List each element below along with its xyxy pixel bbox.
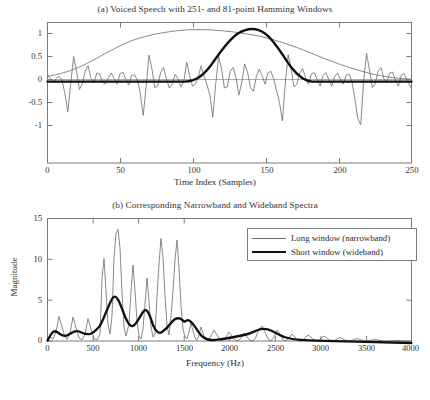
xtick-a-0: 0 [37,165,58,175]
plot-b-canvas [0,196,430,400]
ytick-a-1: 0.5 [20,51,42,61]
xtick-b-6: 3000 [306,343,335,353]
xtick-b-0: 0 [38,343,57,353]
legend-line-thick-icon [252,247,286,257]
panel-a-xlabel: Time Index (Samples) [0,177,430,187]
ytick-a-4: -1 [17,120,42,130]
xtick-a-3: 150 [255,165,279,175]
panel-voiced-speech: (a) Voiced Speech with 251- and 81-point… [0,0,430,200]
xtick-a-4: 200 [328,165,352,175]
panel-spectra: (b) Corresponding Narrowband and Wideban… [0,196,430,400]
long-hamming-window [48,30,412,80]
xtick-b-1: 500 [80,343,106,353]
ytick-a-2: 0 [20,74,42,84]
xtick-b-8: 4000 [396,343,425,353]
xtick-a-5: 250 [400,165,424,175]
legend: Long window (narrowband) Short window (w… [247,228,417,261]
ytick-b-1: 10 [20,254,42,264]
xtick-a-2: 100 [182,165,206,175]
ytick-b-2: 5 [20,295,42,305]
legend-item-wideband: Short window (wideband) [252,245,383,259]
xtick-b-3: 1500 [170,343,199,353]
speech-waveform [48,53,412,124]
figure-container: (a) Voiced Speech with 251- and 81-point… [0,0,430,400]
xtick-b-7: 3500 [352,343,381,353]
ytick-b-0: 15 [20,213,42,223]
xtick-b-2: 1000 [124,343,153,353]
legend-label-narrowband: Long window (narrowband) [291,233,390,243]
legend-label-wideband: Short window (wideband) [291,247,383,257]
xtick-b-5: 2500 [261,343,290,353]
xtick-b-4: 2000 [215,343,244,353]
ytick-a-0: 1 [20,28,42,38]
ytick-a-3: -0.5 [17,97,42,107]
legend-item-narrowband: Long window (narrowband) [252,231,390,245]
panel-b-xlabel: Frequency (Hz) [0,358,430,368]
xtick-a-1: 50 [110,165,131,175]
panel-b-ylabel: Magnitude [9,242,19,312]
legend-line-thin-icon [252,233,286,243]
plot-a-canvas [0,0,430,200]
